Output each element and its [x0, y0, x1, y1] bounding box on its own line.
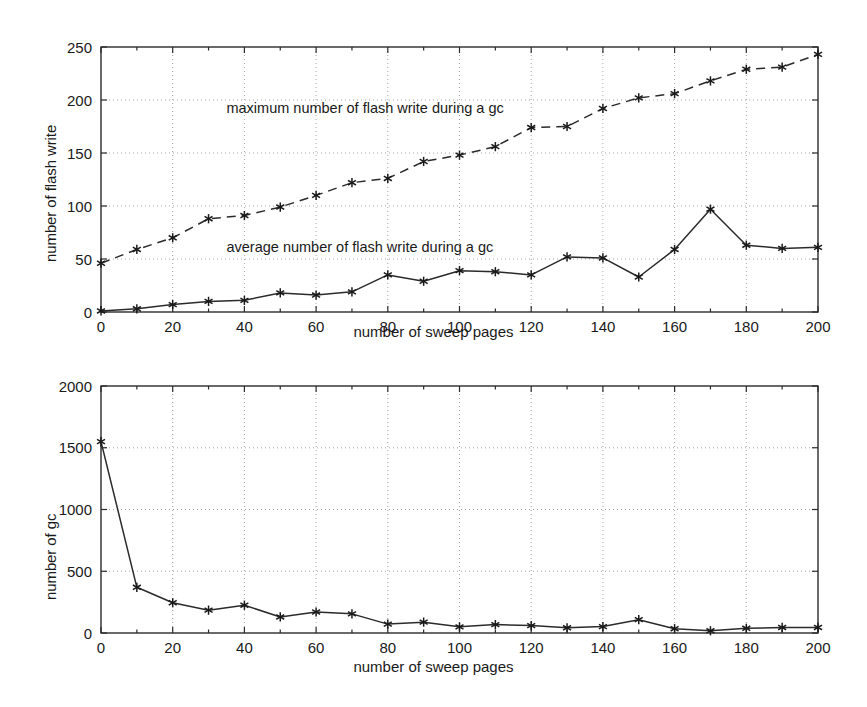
y-tick-label: 100: [67, 198, 92, 215]
data-point-marker: [814, 50, 822, 59]
x-tick-label: 200: [805, 639, 830, 656]
y-tick-label: 0: [84, 304, 92, 321]
x-tick-label: 100: [447, 639, 472, 656]
data-point-marker: [133, 245, 141, 254]
data-point-marker: [312, 191, 320, 200]
y-tick-label: 500: [67, 563, 92, 580]
data-point-marker: [169, 233, 177, 242]
chart-panel-top: 0204060801001201401601802000501001502002…: [0, 30, 867, 355]
data-point-marker: [599, 104, 607, 113]
axes-frame: [101, 386, 818, 633]
y-tick-label: 1500: [59, 439, 92, 456]
y-tick-label: 0: [84, 625, 92, 642]
data-point-marker: [205, 214, 213, 223]
x-axis-title-bottom: number of sweep pages: [0, 658, 867, 675]
y-tick-label: 200: [67, 92, 92, 109]
x-tick-label: 120: [519, 639, 544, 656]
plot-area-bottom: 0204060801001201401601802000500100015002…: [0, 370, 867, 670]
data-point-marker: [635, 272, 643, 281]
y-tick-label: 250: [67, 39, 92, 56]
chart-panel-bottom: 0204060801001201401601802000500100015002…: [0, 370, 867, 670]
x-tick-label: 60: [308, 639, 325, 656]
data-point-marker: [384, 174, 392, 183]
data-point-marker: [706, 76, 714, 85]
y-tick-label: 1000: [59, 501, 92, 518]
x-tick-label: 40: [236, 639, 253, 656]
data-point-marker: [97, 437, 105, 446]
x-tick-label: 140: [590, 639, 615, 656]
y-axis-title-top: number of flash write: [42, 125, 59, 262]
chart-annotation: maximum number of flash write during a g…: [226, 100, 503, 116]
data-point-marker: [348, 178, 356, 187]
x-tick-label: 160: [662, 639, 687, 656]
data-point-marker: [133, 583, 141, 592]
x-axis-title-top: number of sweep pages: [0, 323, 867, 340]
figure-canvas: 0204060801001201401601802000501001502002…: [0, 0, 867, 707]
data-point-marker: [97, 259, 105, 268]
y-tick-label: 150: [67, 145, 92, 162]
y-axis-title-bottom: number of gc: [42, 514, 59, 600]
y-tick-label: 2000: [59, 378, 92, 395]
y-tick-label: 50: [75, 251, 92, 268]
chart-annotation: average number of flash write during a g…: [226, 239, 493, 255]
x-tick-label: 20: [164, 639, 181, 656]
x-tick-label: 180: [734, 639, 759, 656]
x-tick-label: 0: [97, 639, 105, 656]
plot-area-top: 0204060801001201401601802000501001502002…: [0, 30, 867, 355]
x-tick-label: 80: [379, 639, 396, 656]
data-point-marker: [420, 157, 428, 166]
